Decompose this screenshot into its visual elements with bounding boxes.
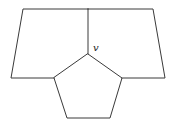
diagram-canvas: v <box>0 0 172 130</box>
vertex-label-v: v <box>93 42 99 53</box>
outer-boundary-left <box>11 9 88 78</box>
outer-boundary-right <box>88 9 165 78</box>
pentagon-face <box>54 54 122 118</box>
